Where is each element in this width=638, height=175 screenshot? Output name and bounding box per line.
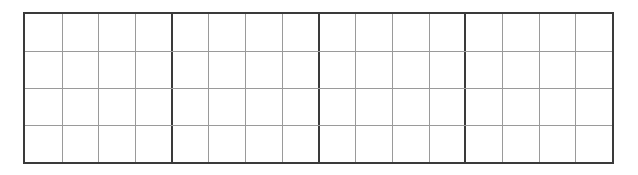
grid-container [23, 12, 614, 164]
horizontal-gridline [25, 51, 612, 52]
horizontal-gridline [25, 125, 612, 126]
horizontal-gridline [25, 88, 612, 89]
